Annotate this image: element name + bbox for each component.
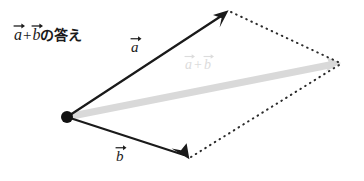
caption-plus-sign: + <box>22 27 32 43</box>
origin-dot <box>61 111 73 123</box>
label-vector-a-text: a <box>131 39 139 55</box>
caption-answer-of-a-plus-b: a + b の答え <box>14 27 82 43</box>
label-sum-vector-b-text: b <box>204 57 211 72</box>
label-vector-b: b <box>116 148 124 164</box>
caption-suffix-text: の答え <box>40 27 82 43</box>
dotted-line-parallel-to-b <box>231 12 338 62</box>
label-sum-vector-a: a <box>185 57 192 72</box>
label-resultant-a-plus-b: a + b <box>185 57 211 72</box>
label-vector-b-glyph: b <box>116 148 124 164</box>
caption-vector-b: b <box>32 27 40 43</box>
caption-vector-a: a <box>14 27 22 43</box>
vector-b-shaft <box>67 117 184 155</box>
label-vector-a: a <box>131 39 139 55</box>
caption-vector-a-text: a <box>14 26 22 43</box>
label-sum-plus-sign: + <box>192 57 204 72</box>
label-sum-vector-b: b <box>204 57 211 72</box>
vector-b <box>67 117 189 159</box>
caption-vector-b-text: b <box>32 26 40 43</box>
label-vector-a-glyph: a <box>131 39 139 55</box>
diagram-canvas: a + b の答え a <box>0 0 364 181</box>
label-vector-b-text: b <box>116 148 124 164</box>
label-sum-vector-a-text: a <box>185 57 192 72</box>
